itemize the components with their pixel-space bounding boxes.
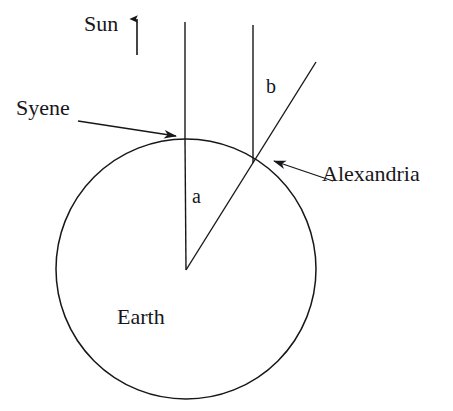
sun-label: Sun [84, 13, 118, 35]
syene-label: Syene [16, 97, 70, 119]
angle-a-label: a [192, 186, 201, 206]
alexandria-label: Alexandria [322, 163, 420, 185]
diagram-canvas [0, 0, 453, 411]
syene-pointer-arrow-icon [78, 121, 176, 136]
angle-b-label: b [266, 76, 276, 96]
earth-radius-to-syene-line [185, 139, 186, 270]
earth-label: Earth [117, 306, 165, 328]
earth-radius-to-alexandria-line [186, 62, 316, 270]
eratosthenes-diagram: Sun Syene Alexandria Earth a b [0, 0, 453, 411]
